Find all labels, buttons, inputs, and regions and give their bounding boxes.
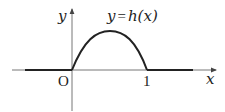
function-label-rhs: h(x) (128, 7, 158, 25)
y-axis-label: y (57, 7, 67, 25)
function-label: y=h(x) (106, 7, 158, 25)
function-label-lhs: y (106, 7, 116, 25)
x-tick-1-label: 1 (143, 73, 151, 89)
curve-hump (72, 31, 147, 70)
x-axis-label: x (206, 70, 215, 88)
function-graph: y x O 1 y=h(x) (0, 0, 225, 112)
origin-label: O (58, 73, 69, 89)
function-label-eq: = (117, 8, 125, 24)
